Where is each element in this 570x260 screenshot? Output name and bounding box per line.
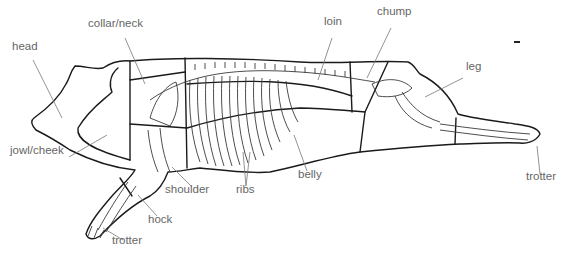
- spine: [150, 71, 375, 100]
- label-loin: loin: [324, 16, 342, 28]
- jowl-division-line: [78, 68, 130, 160]
- label-leg: leg: [466, 61, 481, 73]
- label-head: head: [12, 41, 38, 53]
- leader-jowl-cheek: [69, 135, 107, 157]
- label-ribs: ribs: [236, 184, 255, 196]
- leader-lines: [33, 28, 540, 240]
- fore-trotter-bones: [88, 226, 104, 238]
- cut-line-chump-leg: [360, 62, 388, 152]
- cut-line-collar: [130, 72, 185, 80]
- skeleton: [88, 62, 530, 238]
- cut-line-shoulder: [185, 58, 187, 168]
- label-jowl-cheek: jowl/cheek: [10, 145, 64, 157]
- label-trotter-rear: trotter: [526, 171, 556, 183]
- scapula: [150, 82, 178, 126]
- label-hock: hock: [148, 214, 172, 226]
- label-shoulder: shoulder: [165, 184, 209, 196]
- stray-mark: [514, 41, 520, 43]
- cut-line-hind-hock: [455, 118, 456, 144]
- leader-chump: [367, 28, 391, 78]
- leader-head: [33, 60, 62, 118]
- pig-illustration: [0, 0, 570, 260]
- pig-cuts-diagram: head collar/neck loin chump leg jowl/che…: [0, 0, 570, 260]
- label-belly: belly: [298, 169, 322, 181]
- rib-cage: [189, 76, 298, 166]
- label-trotter-front: trotter: [112, 235, 142, 247]
- cut-line-loin-chump: [350, 62, 352, 112]
- label-collar-neck: collar/neck: [88, 18, 143, 30]
- leader-ribs-a: [243, 152, 246, 186]
- hind-leg-bones: [395, 92, 530, 140]
- label-chump: chump: [377, 6, 412, 18]
- leader-ribs-b: [246, 152, 250, 186]
